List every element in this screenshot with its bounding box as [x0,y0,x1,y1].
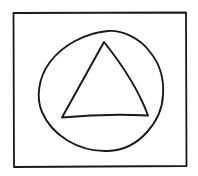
triangle [62,42,148,118]
line-drawing [0,0,198,176]
